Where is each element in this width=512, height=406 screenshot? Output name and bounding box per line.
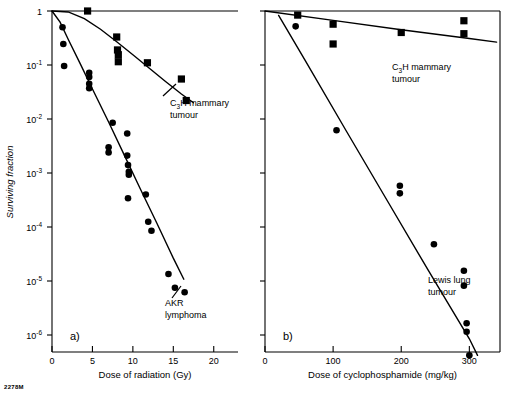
data-point-circle — [148, 228, 155, 235]
y-tick-label: 10-5 — [26, 275, 42, 287]
leader-line-a-c3h — [163, 84, 176, 96]
annotation-line-1: Lewis lung — [428, 275, 471, 285]
data-point-square — [84, 7, 91, 14]
data-point-circle — [109, 120, 116, 127]
x-tick-label: 100 — [326, 356, 341, 366]
data-point-circle — [463, 320, 470, 327]
annotation-line-1: AKR — [165, 298, 184, 308]
x-tick-label: 0 — [262, 356, 267, 366]
figure-container: 110-110-210-310-410-510-605101520Dose of… — [0, 0, 512, 406]
data-point-circle — [466, 352, 473, 359]
data-point-circle — [86, 74, 93, 81]
data-point-circle — [397, 190, 404, 197]
x-tick-label: 10 — [128, 356, 138, 366]
data-point-square — [144, 59, 151, 66]
fit-curve — [52, 11, 194, 103]
panel-b: 0100200300Dose of cyclophosphamide (mg/k… — [260, 11, 500, 380]
data-point-circle — [59, 24, 66, 31]
y-tick-label: 10-6 — [26, 329, 42, 341]
x-tick-label: 0 — [49, 356, 54, 366]
x-tick-label: 15 — [168, 356, 178, 366]
y-tick-label: 10-1 — [26, 59, 42, 71]
data-point-circle — [181, 289, 188, 296]
annotation-line-2: lymphoma — [165, 310, 207, 320]
data-point-circle — [333, 127, 340, 134]
annotation-a-akr-lymphoma: AKRlymphoma — [165, 298, 207, 320]
x-axis-title: Dose of cyclophosphamide (mg/kg) — [308, 369, 457, 380]
panel-id-label: a) — [70, 330, 80, 342]
data-point-circle — [125, 195, 132, 202]
data-point-square — [460, 17, 467, 24]
annotation-b-c3h-mammary-tumour: C3H mammarytumour — [392, 62, 452, 84]
figure-mark: 2278M — [4, 384, 24, 390]
annotation-line-2: tumour — [170, 110, 198, 120]
annotation-line-1: C3H mammary — [170, 98, 230, 110]
annotation-line-1: C3H mammary — [392, 62, 452, 74]
data-point-square — [398, 29, 405, 36]
data-point-circle — [463, 328, 470, 335]
data-point-circle — [125, 162, 132, 169]
data-point-square — [460, 30, 467, 37]
data-point-circle — [145, 218, 152, 225]
series-c3h-mammary-tumour — [265, 11, 497, 48]
data-point-circle — [105, 149, 112, 156]
data-point-circle — [292, 23, 299, 30]
y-tick-label: 10-3 — [26, 167, 42, 179]
data-point-square — [115, 58, 122, 65]
x-tick-label: 5 — [90, 356, 95, 366]
survival-curve-figure: 110-110-210-310-410-510-605101520Dose of… — [0, 0, 512, 406]
data-point-square — [294, 11, 301, 18]
data-point-circle — [124, 152, 131, 159]
data-point-circle — [124, 130, 131, 137]
y-tick-label: 10-4 — [26, 221, 42, 233]
data-point-circle — [165, 271, 172, 278]
annotation-a-c3h-mammary-tumour: C3H mammarytumour — [170, 98, 230, 120]
x-tick-label: 200 — [394, 356, 409, 366]
panel-a: 110-110-210-310-410-510-605101520Dose of… — [26, 7, 238, 381]
data-point-square — [330, 21, 337, 28]
data-point-circle — [86, 85, 93, 92]
annotation-line-2: tumour — [392, 74, 420, 84]
data-point-square — [330, 40, 337, 47]
data-point-circle — [60, 41, 67, 48]
data-point-square — [178, 75, 185, 82]
data-point-circle — [461, 267, 468, 274]
data-point-circle — [397, 182, 404, 189]
y-tick-label: 1 — [37, 7, 42, 17]
annotation-line-2: tumour — [428, 287, 456, 297]
data-point-circle — [126, 171, 133, 178]
series-c3h-mammary-tumour — [52, 7, 194, 104]
x-tick-label: 20 — [209, 356, 219, 366]
data-point-square — [113, 33, 120, 40]
panel-id-label: b) — [283, 330, 293, 342]
data-point-circle — [143, 191, 150, 198]
x-axis-title: Dose of radiation (Gy) — [99, 369, 192, 380]
data-point-circle — [61, 63, 68, 70]
y-axis-title: Surviving fraction — [4, 146, 15, 219]
y-tick-label: 10-2 — [26, 113, 42, 125]
data-point-square — [115, 51, 122, 58]
data-point-circle — [431, 241, 438, 248]
